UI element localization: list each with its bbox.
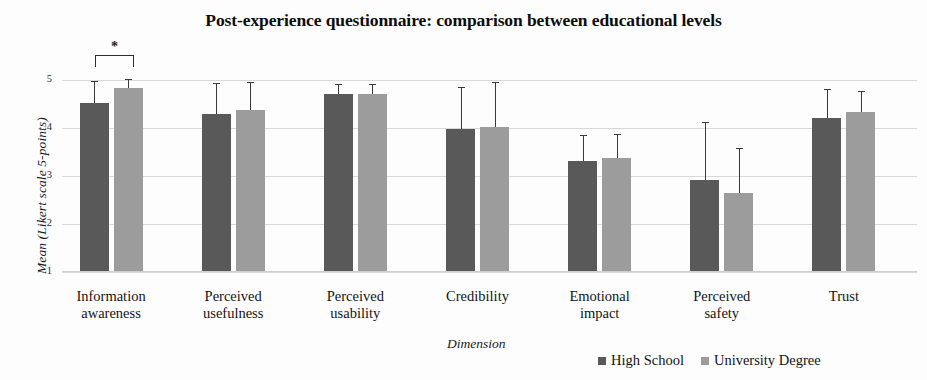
chart-title: Post-experience questionnaire: compariso… bbox=[0, 10, 927, 31]
error-bar bbox=[861, 91, 862, 113]
error-bar-cap bbox=[213, 83, 220, 84]
error-bar bbox=[827, 89, 828, 119]
bar-1-5 bbox=[724, 193, 753, 272]
x-axis-category-label: Emotionalimpact bbox=[540, 288, 660, 322]
error-bar-cap bbox=[247, 82, 254, 83]
x-axis-category-label: Perceivedsafety bbox=[662, 288, 782, 322]
error-bar-cap bbox=[858, 91, 865, 92]
error-bar-cap bbox=[125, 79, 132, 80]
significance-asterisk: * bbox=[95, 40, 134, 54]
error-bar-cap bbox=[335, 84, 342, 85]
y-axis-tick-label: 5 bbox=[22, 73, 52, 84]
bar-1-2 bbox=[358, 94, 387, 272]
bar-0-1 bbox=[202, 114, 231, 272]
bar-0-6 bbox=[812, 118, 841, 272]
x-axis-category-line: Perceived bbox=[662, 288, 782, 305]
legend-item-1[interactable]: University Degree bbox=[701, 352, 821, 369]
x-axis-category-line: usability bbox=[295, 305, 415, 322]
error-bar-cap bbox=[702, 122, 709, 123]
bar-1-1 bbox=[236, 110, 265, 272]
legend-label: University Degree bbox=[714, 352, 821, 369]
error-bar-cap bbox=[614, 134, 621, 135]
x-axis-category-label: Credibility bbox=[418, 288, 538, 305]
significance-bracket bbox=[95, 55, 134, 67]
error-bar-cap bbox=[580, 135, 587, 136]
x-axis-category-label: Trust bbox=[784, 288, 904, 305]
error-bar-cap bbox=[492, 82, 499, 83]
x-axis-category-line: Credibility bbox=[418, 288, 538, 305]
error-bar bbox=[739, 148, 740, 193]
chart-legend: High SchoolUniversity Degree bbox=[598, 352, 821, 369]
bar-0-0 bbox=[80, 103, 109, 272]
bar-1-6 bbox=[846, 112, 875, 272]
gridline bbox=[62, 80, 917, 81]
error-bar-cap bbox=[91, 81, 98, 82]
error-bar bbox=[617, 134, 618, 158]
error-bar bbox=[495, 82, 496, 126]
y-axis-tick-label: 2 bbox=[22, 217, 52, 228]
y-axis-tick-label: 4 bbox=[22, 121, 52, 132]
x-axis-category-line: safety bbox=[662, 305, 782, 322]
error-bar bbox=[705, 122, 706, 180]
error-bar bbox=[338, 84, 339, 95]
x-axis-category-label: Perceivedusefulness bbox=[173, 288, 293, 322]
legend-swatch-icon bbox=[701, 357, 709, 365]
error-bar bbox=[372, 84, 373, 95]
legend-item-0[interactable]: High School bbox=[598, 352, 684, 369]
bar-0-2 bbox=[324, 94, 353, 272]
error-bar bbox=[94, 81, 95, 103]
error-bar bbox=[250, 82, 251, 110]
x-axis-category-label: Perceivedusability bbox=[295, 288, 415, 322]
error-bar-cap bbox=[736, 148, 743, 149]
bar-1-4 bbox=[602, 158, 631, 272]
error-bar bbox=[128, 79, 129, 88]
chart-figure: Post-experience questionnaire: compariso… bbox=[0, 0, 927, 380]
x-axis-category-line: Trust bbox=[784, 288, 904, 305]
y-axis-title: Mean (Likert scale 5-points) bbox=[34, 117, 50, 274]
error-bar bbox=[583, 135, 584, 160]
legend-label: High School bbox=[611, 352, 684, 369]
x-axis-category-line: impact bbox=[540, 305, 660, 322]
bar-0-5 bbox=[690, 180, 719, 272]
plot-area bbox=[62, 80, 917, 272]
bar-0-4 bbox=[568, 161, 597, 272]
x-axis-baseline bbox=[62, 271, 917, 272]
y-axis-tick-label: 3 bbox=[22, 169, 52, 180]
x-axis-title: Dimension bbox=[447, 336, 506, 352]
x-axis-category-line: Information bbox=[51, 288, 171, 305]
x-axis-category-line: Emotional bbox=[540, 288, 660, 305]
x-axis-category-line: Perceived bbox=[295, 288, 415, 305]
x-axis-category-line: awareness bbox=[51, 305, 171, 322]
y-axis-tick-label: 1 bbox=[22, 265, 52, 276]
error-bar-cap bbox=[369, 84, 376, 85]
bar-0-3 bbox=[446, 129, 475, 272]
x-axis-category-line: usefulness bbox=[173, 305, 293, 322]
error-bar-cap bbox=[458, 87, 465, 88]
gridline bbox=[62, 272, 917, 273]
bar-1-3 bbox=[480, 127, 509, 272]
x-axis-category-label: Informationawareness bbox=[51, 288, 171, 322]
x-axis-category-line: Perceived bbox=[173, 288, 293, 305]
legend-swatch-icon bbox=[598, 357, 606, 365]
error-bar-cap bbox=[824, 89, 831, 90]
bar-1-0 bbox=[114, 88, 143, 272]
error-bar bbox=[216, 83, 217, 114]
error-bar bbox=[461, 87, 462, 130]
